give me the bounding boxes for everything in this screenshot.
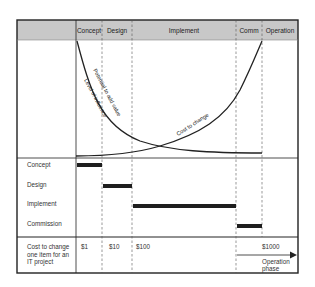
cost-value-concept: $1 xyxy=(81,243,88,251)
header-phase-design: Design xyxy=(102,22,132,38)
cost-row-label: Cost to change one item for an IT projec… xyxy=(27,243,73,266)
header-phase-operation: Operation xyxy=(262,22,298,38)
gantt-row-label-design: Design xyxy=(27,181,47,189)
phase-dividers xyxy=(102,20,262,273)
gantt-bar-commission xyxy=(237,224,262,228)
gantt-bar-concept xyxy=(77,163,102,167)
influence-curve xyxy=(77,41,262,153)
gantt-bar-implement xyxy=(133,204,236,208)
gantt-row-label-concept: Concept xyxy=(27,161,50,169)
header-phase-concept: Concept xyxy=(76,22,102,38)
cost-curve xyxy=(76,41,262,156)
gantt-row-label-commission: Commission xyxy=(27,220,62,228)
operation-phase-note: Operation phase xyxy=(262,258,296,272)
cost-value-operation: $1000 xyxy=(262,243,280,251)
project-lifecycle-diagram: Potential to add value Level of influenc… xyxy=(0,0,315,287)
cost-value-design: $10 xyxy=(109,243,120,251)
gantt-row-label-implement: Implement xyxy=(27,200,56,208)
cost-value-implement: $100 xyxy=(136,243,150,251)
header-phase-implement: Implement xyxy=(132,22,236,38)
header-phase-comm: Comm xyxy=(236,22,262,38)
gantt-bar-design xyxy=(103,184,132,188)
